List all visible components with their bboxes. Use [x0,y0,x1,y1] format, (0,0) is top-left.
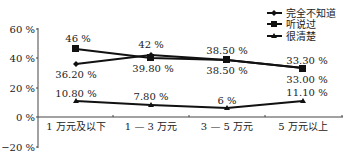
y-tick-labels: 60 % 40 % 20 % 0 % −20 % [1,24,35,153]
data-label: 33.30 % [286,55,327,66]
y-tick-label: 60 % [10,24,35,35]
series-henqingchu [73,98,306,110]
y-tick-label: 0 % [16,112,35,123]
x-category-label: 1 — 3 万元 [125,121,177,132]
series-wanquanbuzhidao [73,52,306,71]
data-label: 46 % [65,33,90,44]
legend-item: 听说过 [267,18,316,30]
legend: 完全不知道 听说过 很清楚 [267,7,336,42]
data-label: 11.10 % [286,87,327,98]
y-tick-label: −20 % [1,142,35,153]
data-label: 7.80 % [134,91,169,102]
x-category-label: 5 万元以上 [278,121,328,132]
square-marker-icon [271,21,277,27]
data-label: 6 % [217,95,236,106]
svg-text:完全不知道: 完全不知道 [286,7,336,19]
legend-item: 很清楚 [267,30,316,42]
data-label: 42 % [138,39,163,50]
diamond-marker-icon [271,10,277,16]
data-label: 10.80 % [55,88,96,99]
y-tick-label: 40 % [10,53,35,64]
x-category-label: 1 万元及以下 [46,121,106,132]
y-tick-label: 20 % [10,83,35,94]
legend-item: 完全不知道 [267,7,336,19]
x-tick-labels: 1 万元及以下 1 — 3 万元 3 — 5 万元 5 万元以上 [46,121,328,132]
data-label: 39.80 % [132,63,173,74]
data-label: 38.50 % [206,65,247,76]
svg-text:很清楚: 很清楚 [286,30,316,42]
svg-text:听说过: 听说过 [286,18,316,30]
data-label: 33.00 % [286,74,327,85]
x-category-label: 3 — 5 万元 [201,121,253,132]
line-chart: 60 % 40 % 20 % 0 % −20 % 1 万元及以下 1 — 3 万… [0,0,351,159]
series-tingshuoguo [72,45,306,72]
data-label: 36.20 % [55,69,96,80]
data-label: 38.50 % [206,45,247,56]
data-labels: 46 % 36.20 % 10.80 % 42 % 39.80 % 7.80 %… [55,33,327,106]
